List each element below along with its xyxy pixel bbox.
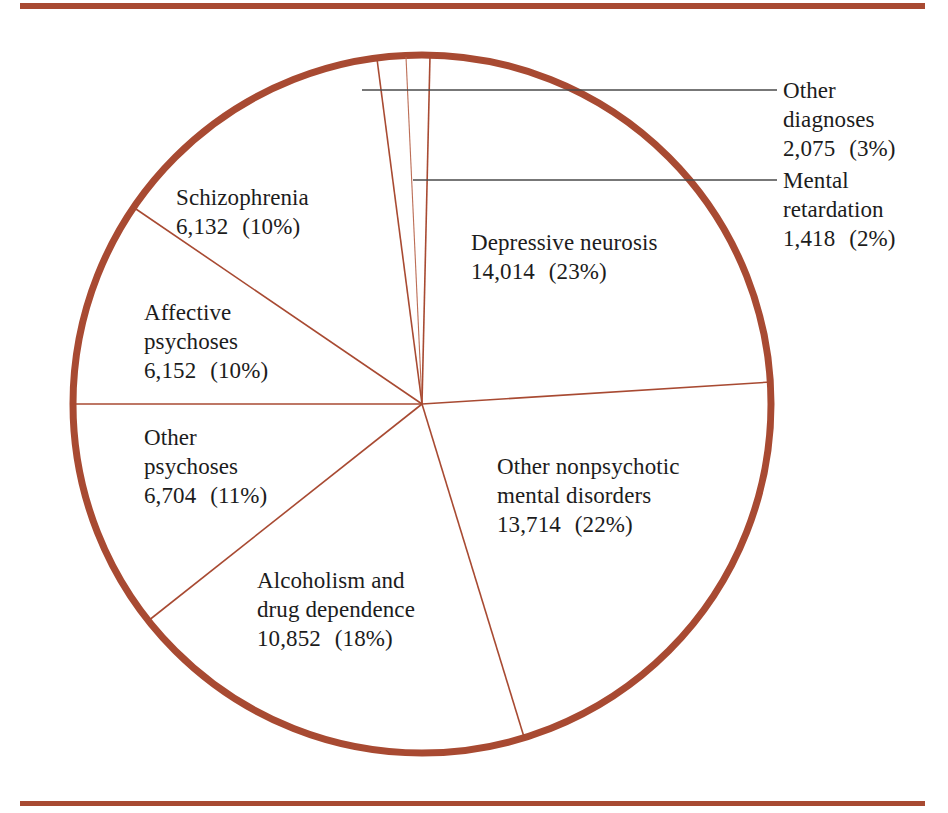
slice-label-stat: 2,075(3%) xyxy=(783,134,896,163)
pie-boundary-top-depressive xyxy=(422,56,430,404)
slice-label-value: 6,704 xyxy=(144,483,196,508)
pie-leader-lines xyxy=(362,90,777,180)
slice-label-percent: (10%) xyxy=(242,214,300,239)
slice-label-name-line1: Affective xyxy=(144,298,268,327)
slice-label-percent: (22%) xyxy=(575,512,633,537)
slice-label-name: Schizophrenia xyxy=(176,183,309,212)
pie-boundary-right xyxy=(422,382,771,404)
slice-label-name-line2: retardation xyxy=(783,195,896,224)
slice-label-percent: (18%) xyxy=(335,626,393,651)
slice-label-affective-psychoses: Affective psychoses 6,152(10%) xyxy=(144,298,268,385)
slice-label-value: 10,852 xyxy=(257,626,321,651)
slice-label-mental-retardation: Mental retardation 1,418(2%) xyxy=(783,166,896,253)
slice-label-value: 14,014 xyxy=(471,259,535,284)
slice-label-other-diagnoses: Other diagnoses 2,075(3%) xyxy=(783,76,896,163)
slice-label-value: 13,714 xyxy=(497,512,561,537)
slice-label-name-line1: Other nonpsychotic xyxy=(497,452,680,481)
slice-label-stat: 13,714(22%) xyxy=(497,510,680,539)
slice-label-name-line2: drug dependence xyxy=(257,595,415,624)
slice-label-value: 6,152 xyxy=(144,358,196,383)
slice-label-percent: (10%) xyxy=(210,358,268,383)
slice-label-schizophrenia: Schizophrenia 6,132(10%) xyxy=(176,183,309,241)
slice-label-name-line1: Mental xyxy=(783,166,896,195)
slice-label-stat: 6,132(10%) xyxy=(176,212,309,241)
pie-chart-figure: Depressive neurosis 14,014(23%) Schizoph… xyxy=(0,0,948,813)
slice-label-depressive-neurosis: Depressive neurosis 14,014(23%) xyxy=(471,228,658,286)
slice-label-name-line2: diagnoses xyxy=(783,105,896,134)
slice-label-name-line2: mental disorders xyxy=(497,481,680,510)
slice-label-name-line2: psychoses xyxy=(144,327,268,356)
slice-label-percent: (3%) xyxy=(849,136,895,161)
slice-label-value: 1,418 xyxy=(783,226,835,251)
slice-label-stat: 14,014(23%) xyxy=(471,257,658,286)
slice-label-name-line1: Other xyxy=(144,423,267,452)
slice-label-percent: (23%) xyxy=(549,259,607,284)
slice-label-value: 2,075 xyxy=(783,136,835,161)
slice-label-stat: 6,704(11%) xyxy=(144,481,267,510)
pie-boundary-other-diagnoses xyxy=(377,59,422,404)
slice-label-name-line2: psychoses xyxy=(144,452,267,481)
slice-label-other-nonpsychotic-mental-disorders: Other nonpsychotic mental disorders 13,7… xyxy=(497,452,680,539)
slice-label-name-line1: Alcoholism and xyxy=(257,566,415,595)
slice-label-other-psychoses: Other psychoses 6,704(11%) xyxy=(144,423,267,510)
slice-label-percent: (11%) xyxy=(210,483,267,508)
slice-label-value: 6,132 xyxy=(176,214,228,239)
slice-label-stat: 6,152(10%) xyxy=(144,356,268,385)
slice-label-name: Depressive neurosis xyxy=(471,228,658,257)
slice-label-alcoholism-drug-dependence: Alcoholism and drug dependence 10,852(18… xyxy=(257,566,415,653)
pie-boundary-mental-retardation xyxy=(406,57,422,404)
slice-label-percent: (2%) xyxy=(849,226,895,251)
slice-label-name-line1: Other xyxy=(783,76,896,105)
slice-label-stat: 1,418(2%) xyxy=(783,224,896,253)
slice-label-stat: 10,852(18%) xyxy=(257,624,415,653)
